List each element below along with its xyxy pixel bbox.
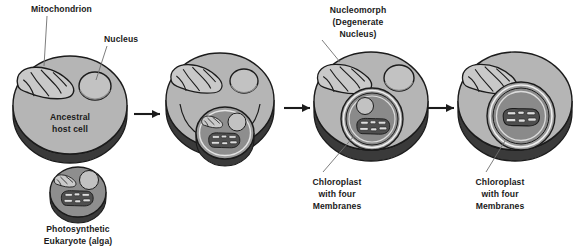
ancestral-host-cell-label-line1: Ancestral xyxy=(50,112,90,122)
inset-alga-cell: Photosynthetic Eukaryote (alga) xyxy=(44,167,112,246)
chloroplast-label-3-line3: Membranes xyxy=(313,201,362,211)
nucleus-shape-3 xyxy=(384,65,414,91)
nucleomorph-label-line2: (Degenerate xyxy=(333,17,384,27)
nucleus-label: Nucleus xyxy=(104,34,138,44)
arrow-3-to-4 xyxy=(428,104,454,112)
nucleus-shape-1 xyxy=(79,72,111,100)
endosymbiosis-diagram: Ancestral host cell Mitochondrion Nucleu… xyxy=(0,0,587,251)
stage-3-nucleomorph: Nucleomorph (Degenerate Nucleus) Chlorop… xyxy=(313,5,428,211)
nucleomorph-shape xyxy=(357,98,374,115)
nucleus-shape-engulfed xyxy=(228,113,246,131)
stage-2-engulfment xyxy=(166,53,274,166)
photosynthetic-eukaryote-label-line2: Eukaryote (alga) xyxy=(44,236,112,246)
diagram-canvas: Ancestral host cell Mitochondrion Nucleu… xyxy=(0,0,587,251)
arrow-1-to-2 xyxy=(134,110,160,118)
photosynthetic-eukaryote-label-line1: Photosynthetic xyxy=(46,224,110,234)
nucleus-shape-alga xyxy=(80,171,99,190)
mitochondrion-label: Mitochondrion xyxy=(31,4,92,14)
chloroplast-label-3-line2: with four xyxy=(317,189,356,199)
chloroplast-label-3-line1: Chloroplast xyxy=(313,177,362,187)
chloroplast-label-4-line3: Membranes xyxy=(476,201,525,211)
mitochondrion-leader-line xyxy=(44,16,47,66)
ancestral-host-cell-label-line2: host cell xyxy=(52,124,88,134)
nucleus-shape-2 xyxy=(230,69,258,93)
chloroplast-inner-3 xyxy=(357,118,390,134)
chloroplast-four-membranes-4 xyxy=(487,82,555,150)
engulfed-alga-2 xyxy=(196,107,254,166)
chloroplast-label-4-line2: with four xyxy=(480,189,519,199)
arrow-2-to-3 xyxy=(284,104,310,112)
stage-4-nucleomorph-lost: Chloroplast with four Membranes xyxy=(458,52,572,211)
chloroplast-inner-4 xyxy=(503,108,539,125)
nucleomorph-label-line1: Nucleomorph xyxy=(330,5,387,15)
nucleomorph-leader-line xyxy=(322,40,340,62)
nucleomorph-label-line3: Nucleus) xyxy=(339,29,376,39)
chloroplast-shape-engulfed xyxy=(209,133,240,148)
chloroplast-shape-alga xyxy=(61,191,93,206)
chloroplast-label-4-line1: Chloroplast xyxy=(476,177,525,187)
stage-1-ancestral-host-cell: Ancestral host cell xyxy=(13,56,127,163)
